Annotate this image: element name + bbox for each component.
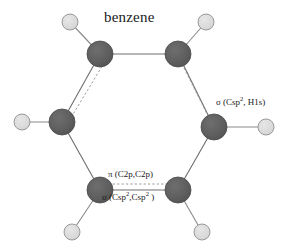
pi-bond-c2-c3 <box>182 64 210 120</box>
benzene-orbital-diagram: benzene σ (Csp2, H1s) π (C2p,C2p) σ (Csp… <box>0 0 288 249</box>
figure-title: benzene <box>104 10 155 25</box>
atom-hydrogen-h2 <box>198 14 214 30</box>
pi-bond-c6-c1 <box>69 63 104 121</box>
label-sigma-carbon-carbon: σ (Csp2,Csp2 ) <box>102 193 154 202</box>
label-pi-carbon-carbon: π (C2p,C2p) <box>108 170 153 179</box>
atom-hydrogen-h1 <box>62 14 78 30</box>
atom-carbon-c3 <box>201 114 227 140</box>
molecule-canvas <box>0 0 288 249</box>
sigma-ch-prefix: σ (Csp <box>216 97 240 107</box>
label-sigma-carbon-hydrogen: σ (Csp2, H1s) <box>216 98 265 107</box>
atom-hydrogen-h5 <box>64 224 80 240</box>
atom-carbon-c2 <box>165 41 191 67</box>
atom-hydrogen-h6 <box>14 114 30 130</box>
atom-hydrogen-h3 <box>258 119 274 135</box>
sigma-cc-prefix: σ (Csp <box>102 192 126 202</box>
sigma-cc-suffix: ) <box>149 192 154 202</box>
pi-bond-layer <box>69 63 210 184</box>
sigma-ch-suffix: , H1s) <box>243 97 265 107</box>
sigma-cc-middle: ,Csp <box>129 192 145 202</box>
atom-carbon-c4 <box>165 177 191 203</box>
atom-hydrogen-h4 <box>194 224 210 240</box>
atom-carbon-c1 <box>87 41 113 67</box>
atom-carbon-c6 <box>49 109 75 135</box>
